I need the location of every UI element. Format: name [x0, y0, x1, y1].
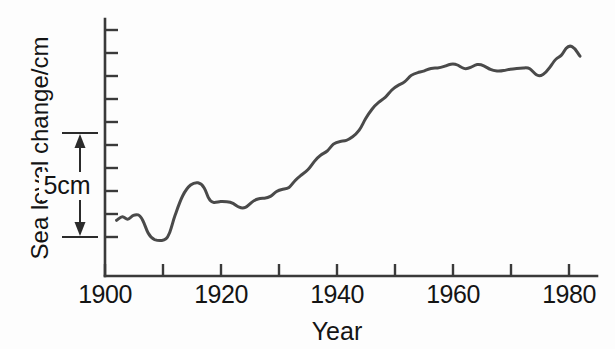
sea-level-curve [117, 46, 580, 240]
x-tick-label-1920: 1920 [194, 280, 248, 308]
scale-bar-arrow-up [75, 134, 86, 148]
x-axis-title: Year [312, 317, 363, 345]
x-tick-label-1900: 1900 [78, 280, 132, 308]
chart-figure: 1900 1920 1940 1960 1980 Year Sea level … [0, 0, 615, 349]
x-tick-label-1980: 1980 [542, 280, 596, 308]
x-tick-label-1940: 1940 [310, 280, 364, 308]
scale-bar-label: 5cm [43, 171, 90, 199]
sea-level-line-chart: 1900 1920 1940 1960 1980 Year Sea level … [0, 0, 615, 349]
x-axis-ticks [105, 264, 569, 276]
x-tick-label-1960: 1960 [426, 280, 480, 308]
scale-bar-arrow-down [75, 222, 86, 236]
y-axis-title: Sea level change/cm [26, 37, 53, 260]
y-axis-ticks [105, 30, 118, 237]
